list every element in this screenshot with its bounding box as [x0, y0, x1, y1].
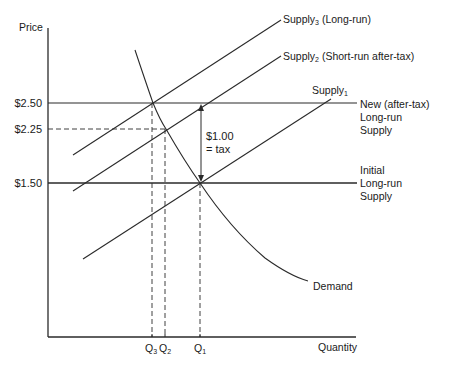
demand-label: Demand: [313, 280, 353, 292]
price-label-250: $2.50: [2, 97, 42, 109]
price-label-225: $2.25: [2, 123, 42, 135]
new-lr-supply-label: New (after-tax) Long-run Supply: [360, 98, 429, 137]
initial-lr-supply-line3: Supply: [360, 190, 402, 203]
y-axis-label: Price: [19, 21, 43, 33]
price-label-150: $1.50: [2, 177, 42, 189]
demand-curve: [135, 50, 308, 281]
tax-annotation: $1.00 = tax: [206, 130, 234, 156]
new-lr-supply-line3: Supply: [360, 124, 429, 137]
initial-lr-supply-line2: Long-run: [360, 177, 402, 190]
x-axis-label: Quantity: [318, 341, 357, 353]
q2-label: Q2: [159, 342, 171, 354]
initial-lr-supply-line1: Initial: [360, 164, 402, 177]
tax-amount: $1.00: [206, 130, 234, 143]
tax-arrow-head-up: [198, 104, 204, 111]
new-lr-supply-line2: Long-run: [360, 111, 429, 124]
initial-lr-supply-label: Initial Long-run Supply: [360, 164, 402, 203]
new-lr-supply-line1: New (after-tax): [360, 98, 429, 111]
q3-label: Q3: [145, 342, 157, 354]
supply1-label: Supply1: [312, 84, 348, 96]
q1-label: Q1: [194, 342, 206, 354]
supply2-label: Supply2 (Short-run after-tax): [283, 50, 414, 62]
supply3-curve: [73, 20, 281, 155]
supply2-curve: [73, 56, 281, 191]
supply3-label: Supply3 (Long-run): [283, 13, 371, 25]
supply1-curve: [83, 99, 331, 259]
tax-equals: = tax: [206, 143, 234, 156]
